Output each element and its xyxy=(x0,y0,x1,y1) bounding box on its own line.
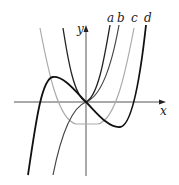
curve-d-label: d xyxy=(144,11,152,25)
x-axis-label: x xyxy=(160,104,167,118)
curve-a-label: a xyxy=(107,11,114,25)
curve-b-label: b xyxy=(117,11,125,25)
y-axis-label: y xyxy=(76,22,84,36)
y-axis-arrow-icon xyxy=(84,25,89,32)
curve-c-label: c xyxy=(131,11,138,25)
curve-d xyxy=(28,25,146,175)
graph: x y a b c d xyxy=(0,0,179,185)
curve-c xyxy=(40,28,134,124)
